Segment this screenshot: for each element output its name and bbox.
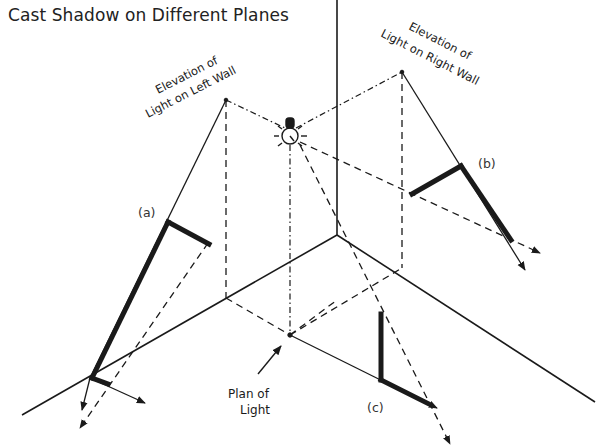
shadow-a-base xyxy=(92,378,108,384)
plan-pointer-arrow xyxy=(258,346,281,374)
plan-point xyxy=(288,333,292,337)
light-to-left-elev xyxy=(226,100,285,128)
plan-to-c-dashed xyxy=(290,300,337,335)
label-a: (a) xyxy=(138,205,155,220)
plan-label-line2: Light xyxy=(240,403,270,417)
label-c: (c) xyxy=(367,400,384,415)
plan-label-line1: Plan of xyxy=(228,387,270,401)
shadow-c-floor xyxy=(381,380,429,404)
shadow-b-top xyxy=(412,166,461,194)
ray-a-solid xyxy=(82,378,90,410)
left-elev-point xyxy=(224,98,228,102)
right-elev-point xyxy=(400,70,404,74)
shadow-b-down xyxy=(461,166,511,240)
light-bulb-icon xyxy=(274,118,307,146)
diagram-svg: Elevation of Light on Left Wall Elevatio… xyxy=(0,0,602,448)
plan-to-right-wall xyxy=(290,268,402,335)
plan-to-left-wall xyxy=(226,298,290,335)
label-b: (b) xyxy=(478,156,496,171)
light-to-right-elev xyxy=(296,72,402,128)
shadow-a-horizontal xyxy=(168,222,209,244)
diagram-canvas: Cast Shadow on Different Planes xyxy=(0,0,602,448)
